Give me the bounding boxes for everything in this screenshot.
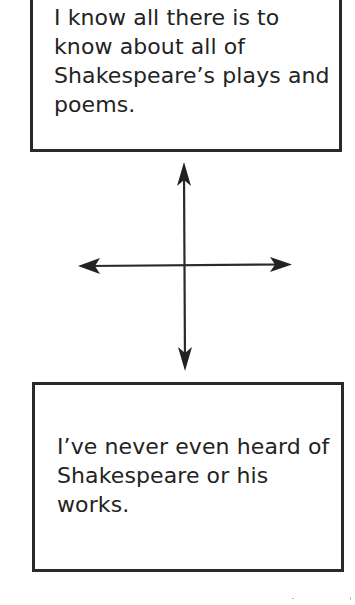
bottom-statement-box: I’ve never even heard of Shakespeare or … (32, 382, 344, 572)
scan-speck (350, 597, 351, 600)
top-statement-box: I know all there is to know about all of… (30, 0, 342, 152)
arrow-up-icon (177, 162, 191, 186)
arrow-left-icon (78, 258, 100, 274)
horizontal-double-arrow (78, 257, 292, 274)
arrow-down-icon (178, 347, 192, 371)
arrow-right-icon (270, 257, 292, 272)
bottom-statement-text: I’ve never even heard of Shakespeare or … (57, 432, 337, 519)
top-statement-text: I know all there is to know about all of… (54, 3, 334, 119)
vertical-double-arrow (177, 162, 192, 371)
scan-speck (292, 598, 294, 599)
